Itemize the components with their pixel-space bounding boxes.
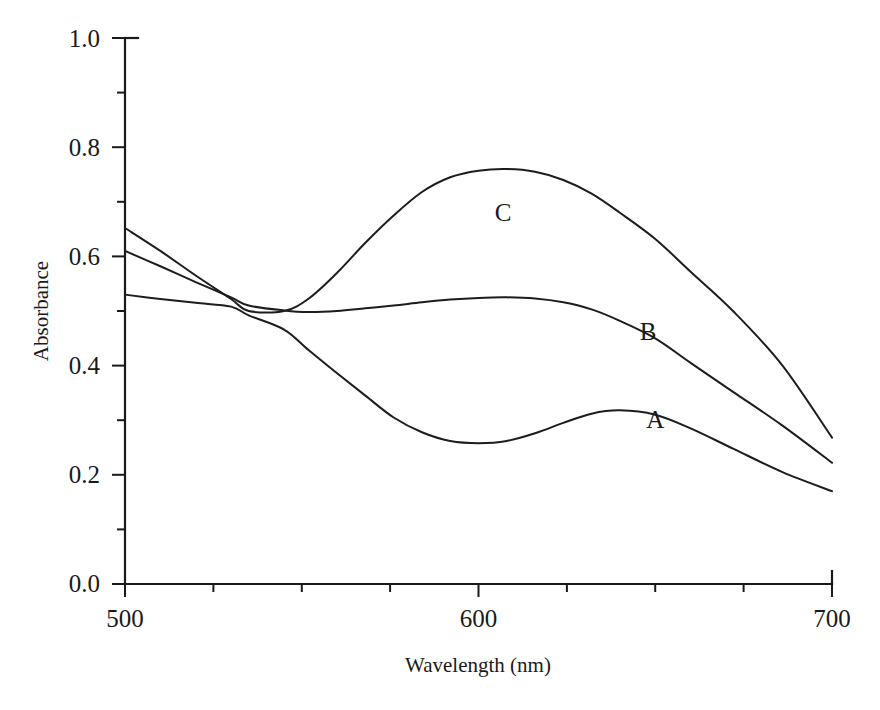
y-minor-ticks — [117, 93, 125, 530]
curve-a — [125, 295, 832, 492]
axis-frame — [125, 38, 832, 584]
curves-group — [125, 169, 832, 491]
y-tick-label: 0.4 — [69, 352, 101, 379]
curve-label-c: C — [495, 199, 512, 226]
chart-canvas: 1.0 0.8 0.6 0.4 0.2 0.0 500 600 700 — [0, 0, 880, 710]
x-major-ticks — [125, 584, 832, 597]
y-tick-label: 0.2 — [69, 461, 100, 488]
curve-b — [125, 251, 832, 463]
curve-label-a: A — [646, 406, 664, 433]
y-tick-label: 0.8 — [69, 134, 100, 161]
x-tick-label: 600 — [460, 605, 498, 632]
y-tick-label: 0.6 — [69, 243, 100, 270]
curve-label-b: B — [640, 318, 657, 345]
x-tick-labels: 500 600 700 — [106, 605, 851, 632]
absorbance-spectra-figure: 1.0 0.8 0.6 0.4 0.2 0.0 500 600 700 — [0, 0, 880, 710]
y-tick-labels: 1.0 0.8 0.6 0.4 0.2 0.0 — [69, 25, 101, 597]
curve-c — [125, 169, 832, 438]
y-tick-label: 1.0 — [69, 25, 100, 52]
x-tick-label: 700 — [813, 605, 851, 632]
curve-labels: A B C — [495, 199, 664, 434]
y-tick-label: 0.0 — [69, 570, 100, 597]
x-tick-label: 500 — [106, 605, 144, 632]
x-axis-title: Wavelength (nm) — [405, 653, 551, 677]
y-axis-title: Absorbance — [29, 261, 53, 361]
